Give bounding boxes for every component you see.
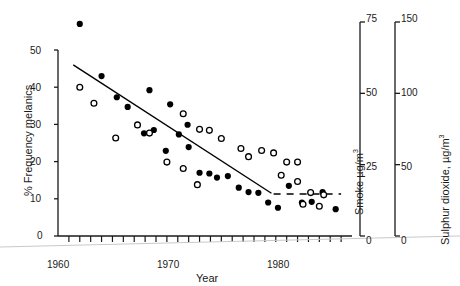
smoke-tick-label-50: 50: [366, 87, 377, 98]
data-point-filled: [77, 21, 83, 27]
smoke-tick-label-0: 0: [366, 235, 372, 246]
so2-axis-exponent: 3: [438, 134, 445, 138]
data-point-filled: [167, 101, 173, 107]
data-point-filled: [275, 205, 281, 211]
data-point-open: [218, 136, 224, 142]
data-point-open: [278, 172, 284, 178]
data-point-open: [91, 100, 97, 106]
so2-tick-label-0: 0: [401, 235, 407, 246]
data-point-filled: [265, 199, 271, 205]
plot-svg: [0, 0, 460, 286]
data-point-filled: [286, 183, 292, 189]
data-point-open: [113, 135, 119, 141]
so2-tick-label-50: 50: [401, 161, 412, 172]
data-point-open: [180, 111, 186, 117]
so2-axis-title: Sulphur dioxide, µg/m3: [438, 134, 451, 245]
data-point-open: [259, 148, 265, 154]
figure-canvas: [0, 0, 460, 286]
data-point-open: [194, 182, 200, 188]
data-point-open: [246, 154, 252, 160]
data-point-open: [180, 166, 186, 172]
data-point-open: [197, 126, 203, 132]
x-axis-title: Year: [196, 272, 218, 284]
data-point-filled: [309, 199, 315, 205]
data-point-open: [271, 150, 277, 156]
smoke-tick-label-25: 25: [366, 161, 377, 172]
smoke-axis-exponent: 3: [352, 149, 359, 153]
data-point-open: [206, 127, 212, 133]
xtick-label-1970: 1970: [157, 259, 179, 270]
data-point-filled: [146, 87, 152, 93]
so2-axis-title-text: Sulphur dioxide, µg/m: [439, 138, 451, 245]
data-point-filled: [184, 122, 190, 128]
data-point-filled: [245, 189, 251, 195]
data-point-filled: [114, 94, 120, 100]
data-point-filled: [206, 170, 212, 176]
xtick-label-1960: 1960: [47, 259, 69, 270]
data-point-open: [77, 84, 83, 90]
data-point-open: [300, 201, 306, 207]
y-axis-title-text: % Frequency melanics: [22, 85, 34, 196]
data-point-open: [135, 122, 141, 128]
data-point-filled: [125, 104, 131, 110]
data-point-filled: [98, 73, 104, 79]
data-point-filled: [225, 173, 231, 179]
data-point-filled: [214, 174, 220, 180]
xtick-label-1980: 1980: [267, 259, 289, 270]
so2-tick-label-100: 100: [401, 87, 418, 98]
ytick-label-50: 50: [30, 45, 41, 56]
data-point-filled: [236, 185, 242, 191]
data-point-filled: [333, 206, 339, 212]
so2-tick-label-150: 150: [401, 13, 418, 24]
data-point-filled: [176, 131, 182, 137]
data-point-open: [238, 146, 244, 152]
data-point-filled: [196, 170, 202, 176]
data-point-filled: [255, 190, 261, 196]
data-point-open: [284, 159, 290, 165]
data-point-open: [321, 192, 327, 198]
ytick-label-0: 0: [37, 230, 43, 241]
smoke-tick-label-75: 75: [366, 13, 377, 24]
smoke-axis-title-text: Smoke µg/m: [353, 153, 365, 215]
data-point-open: [295, 159, 301, 165]
data-point-filled: [163, 148, 169, 154]
regression-line: [73, 65, 271, 193]
data-point-open: [295, 179, 301, 185]
data-point-open: [316, 203, 322, 209]
y-axis-title: % Frequency melanics: [22, 85, 34, 196]
data-point-open: [308, 190, 314, 196]
data-point-open: [147, 130, 153, 136]
data-point-open: [164, 159, 170, 165]
data-point-filled: [186, 144, 192, 150]
smoke-axis-title: Smoke µg/m3: [352, 149, 365, 215]
